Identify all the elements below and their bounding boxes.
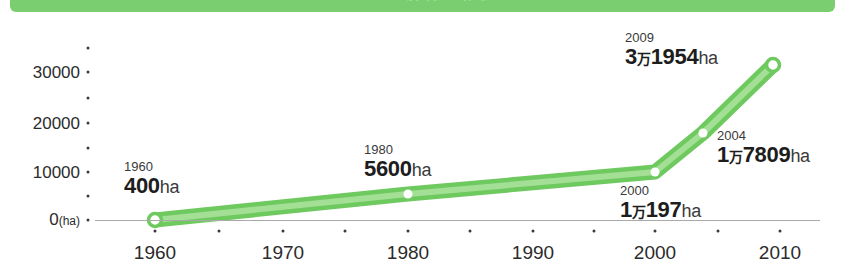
data-label-2009-year: 2009 [625, 31, 718, 45]
x-axis-label-1970: 1970 [262, 243, 304, 262]
data-point-1980[interactable] [404, 190, 413, 199]
x-axis-baseline [95, 220, 820, 221]
x-axis-tick-2010 [779, 230, 782, 233]
man-character-2009: 万 [637, 51, 651, 67]
y-axis-label-0: 0(ha) [49, 211, 80, 230]
data-point-2000[interactable] [651, 168, 660, 177]
x-axis-tick-1970 [282, 230, 285, 233]
data-point-2009[interactable] [767, 59, 780, 72]
x-axis-tick-1985 [469, 230, 472, 233]
data-label-1960-year: 1960 [124, 160, 179, 174]
x-axis-label-1960: 1960 [134, 243, 176, 262]
data-label-2000-year: 2000 [620, 184, 701, 198]
x-axis-tick-2000 [654, 230, 657, 233]
data-label-1980: 1980 5600ha [364, 143, 431, 182]
data-label-1980-year: 1980 [364, 143, 431, 157]
y-axis-tick-10000 [87, 171, 90, 174]
y-axis-tick-30000 [87, 71, 90, 74]
y-axis-label-30000: 30000 [33, 64, 80, 81]
x-axis-tick-1965 [218, 230, 221, 233]
y-axis-label-20000: 20000 [33, 115, 80, 132]
x-axis-label-1980: 1980 [387, 243, 429, 262]
x-axis-tick-1995 [593, 230, 596, 233]
y-axis-tick-0 [87, 219, 90, 222]
data-label-2000: 2000 1万197ha [620, 184, 701, 224]
man-character-2000: 万 [632, 204, 646, 220]
x-axis-label-2010: 2010 [759, 243, 801, 262]
x-axis-tick-1990 [532, 230, 535, 233]
data-label-2009: 2009 3万1954ha [625, 31, 718, 71]
data-label-2004-year: 2004 [717, 129, 810, 143]
data-label-1960: 1960 400ha [124, 160, 179, 199]
data-label-1960-value: 400ha [124, 174, 179, 199]
y-axis-unit: (ha) [59, 214, 80, 228]
x-axis-label-2000: 2000 [634, 243, 676, 262]
data-label-2009-value: 3万1954ha [625, 45, 718, 71]
y-axis-tick-20000 [87, 122, 90, 125]
y-axis-tick-5000 [87, 195, 90, 198]
data-point-2004[interactable] [699, 129, 708, 138]
man-character-2004: 万 [729, 149, 743, 165]
x-axis-tick-1980 [407, 230, 410, 233]
data-label-1980-value: 5600ha [364, 157, 431, 182]
data-label-2004: 2004 1万7809ha [717, 129, 810, 169]
chart-page: ゴルフ場面積の推移 30000 20000 10000 0(ha) [0, 0, 846, 274]
y-axis-tick-35000 [87, 47, 90, 50]
x-axis-tick-2005 [717, 230, 720, 233]
data-label-2004-value: 1万7809ha [717, 143, 810, 169]
y-axis-label-10000: 10000 [33, 164, 80, 181]
y-axis-tick-15000 [87, 147, 90, 150]
x-axis-tick-1960 [154, 230, 157, 233]
x-axis-label-1990: 1990 [512, 243, 554, 262]
data-label-2000-value: 1万197ha [620, 198, 701, 224]
y-axis-tick-25000 [87, 97, 90, 100]
x-axis-tick-1975 [344, 230, 347, 233]
